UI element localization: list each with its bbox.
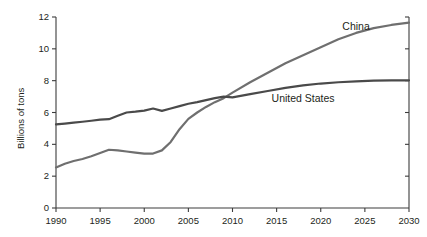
- x-tick-label: 1990: [31, 216, 81, 226]
- y-tick-label: 8: [16, 76, 49, 86]
- series-label-united-states: United States: [272, 93, 335, 104]
- y-tick-label: 2: [16, 171, 49, 181]
- x-tick-label: 2015: [252, 216, 302, 226]
- x-tick-label: 2025: [340, 216, 390, 226]
- x-tick-label: 2000: [119, 216, 169, 226]
- chart-series-lines: [56, 23, 409, 168]
- y-tick-label: 0: [16, 203, 49, 213]
- y-tick-label: 12: [16, 12, 49, 22]
- series-label-china: China: [342, 21, 369, 32]
- y-axis-title: Billions of tons: [16, 87, 26, 148]
- chart-tick-marks: [52, 17, 409, 212]
- emissions-line-chart: 024681012 199019952000200520102015202020…: [0, 0, 427, 237]
- chart-axes: [56, 17, 409, 208]
- x-tick-label: 2010: [208, 216, 258, 226]
- y-tick-label: 10: [16, 44, 49, 54]
- x-tick-label: 2030: [384, 216, 427, 226]
- x-tick-label: 1995: [75, 216, 125, 226]
- x-tick-label: 2020: [296, 216, 346, 226]
- chart-plot-area: [0, 0, 427, 237]
- x-tick-label: 2005: [163, 216, 213, 226]
